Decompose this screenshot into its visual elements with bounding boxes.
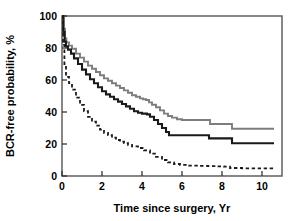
x-tick-label: 6: [179, 180, 185, 192]
chart-figure: 0246810 020406080100 Time since surgery,…: [0, 0, 294, 221]
x-axis-tick-labels: 0246810: [59, 180, 268, 192]
series-gray-curve: [62, 16, 274, 129]
x-tick-label: 10: [256, 180, 268, 192]
y-tick-label: 80: [45, 42, 57, 54]
y-axis-tick-labels: 020406080100: [39, 10, 57, 182]
x-tick-label: 4: [139, 180, 145, 192]
plot-frame: [62, 16, 282, 176]
series-dashed-curve: [62, 16, 274, 168]
x-axis-title: Time since surgery, Yr: [114, 202, 232, 214]
y-tick-label: 20: [45, 138, 57, 150]
x-axis-ticks: [62, 171, 262, 176]
y-tick-label: 40: [45, 106, 57, 118]
x-tick-label: 2: [99, 180, 105, 192]
km-survival-chart: 0246810 020406080100 Time since surgery,…: [0, 0, 294, 221]
y-tick-label: 100: [39, 10, 57, 22]
y-axis-title: BCR-free probability, %: [4, 35, 16, 157]
series-black-curve: [62, 16, 274, 143]
y-tick-label: 0: [51, 170, 57, 182]
y-tick-label: 60: [45, 74, 57, 86]
data-series-group: [62, 16, 274, 168]
x-tick-label: 8: [219, 180, 225, 192]
x-tick-label: 0: [59, 180, 65, 192]
